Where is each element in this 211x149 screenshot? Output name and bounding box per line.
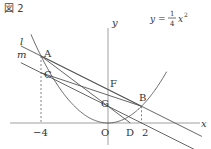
eq-denominator: 4 bbox=[170, 20, 175, 28]
curve-equation-label: y = 1 4 x 2 bbox=[149, 10, 188, 28]
y-axis-label: y bbox=[111, 17, 118, 28]
segment-AD bbox=[41, 56, 130, 123]
svg-text:y =: y = bbox=[149, 14, 166, 24]
diagram: 図 2 y x O −4 2 A B C F G D l m y = 1 4 x… bbox=[0, 0, 211, 149]
tick-label-neg4: −4 bbox=[33, 127, 48, 138]
eq-exponent: 2 bbox=[184, 11, 188, 18]
segment-CB bbox=[41, 73, 142, 107]
point-F-label: F bbox=[110, 78, 117, 89]
line-m-label: m bbox=[17, 49, 26, 60]
x-axis-label: x bbox=[201, 118, 207, 129]
segment-AB bbox=[41, 56, 142, 106]
point-G-label: G bbox=[101, 98, 109, 109]
point-B-label: B bbox=[139, 92, 146, 103]
figure-label: 図 2 bbox=[4, 3, 24, 14]
point-A-label: A bbox=[43, 48, 52, 59]
point-C-label: C bbox=[44, 69, 52, 80]
line-l-label: l bbox=[20, 36, 23, 47]
eq-variable: x bbox=[178, 14, 183, 24]
origin-label: O bbox=[101, 127, 109, 138]
tick-label-2: 2 bbox=[142, 127, 148, 138]
eq-numerator: 1 bbox=[170, 10, 174, 18]
point-D-label: D bbox=[126, 127, 134, 138]
